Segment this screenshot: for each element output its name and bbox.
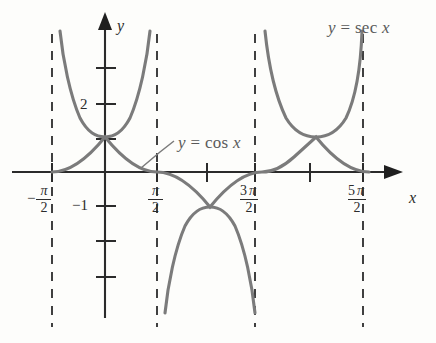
x-tick-label-five-half-pi: 5 π 2 <box>348 184 366 215</box>
curve-sec-branch-right <box>265 31 362 137</box>
cos-label-variable: x <box>233 133 241 152</box>
cos-label-function: cos <box>205 133 229 152</box>
x-axis-label: x <box>409 189 416 207</box>
fraction-numerator: π <box>247 184 258 199</box>
fraction-denominator: 2 <box>354 200 361 215</box>
fraction-coefficient: 3 <box>240 184 247 198</box>
sec-label-lhs: y <box>328 18 336 37</box>
graph-canvas <box>0 0 436 343</box>
fraction-numerator-group: 5 π <box>348 184 366 199</box>
fraction-denominator: 2 <box>246 200 253 215</box>
x-tick-label-neg-half-pi: − π 2 <box>27 184 51 215</box>
x-tick-label-three-half-pi: 3 π 2 <box>240 184 258 215</box>
curve-sec-branch-middle <box>165 207 255 313</box>
sec-label-variable: x <box>382 18 390 37</box>
fraction-numerator-group: 3 π <box>240 184 258 199</box>
fraction-denominator: 2 <box>152 200 159 215</box>
cos-label-equals: = <box>190 133 200 152</box>
curve-label-cos: y = cos x <box>178 133 241 153</box>
y-tick-label-2: 2 <box>80 96 88 113</box>
y-axis <box>98 12 112 318</box>
y-tick-label-neg1: −1 <box>72 197 88 214</box>
fraction-numerator: π <box>150 184 161 199</box>
cos-label-lhs: y <box>178 133 186 152</box>
fraction-coefficient: 5 <box>348 184 355 198</box>
sec-label-equals: = <box>340 18 350 37</box>
y-axis-label: y <box>117 17 124 35</box>
x-tick-label-half-pi: π 2 <box>148 184 163 215</box>
fraction-denominator: 2 <box>40 200 47 215</box>
fraction-numerator: π <box>355 184 366 199</box>
sec-label-function: sec <box>355 18 378 37</box>
fraction-numerator: π <box>38 184 49 199</box>
curve-label-sec: y = sec x <box>328 18 390 38</box>
minus-sign: − <box>27 184 36 206</box>
